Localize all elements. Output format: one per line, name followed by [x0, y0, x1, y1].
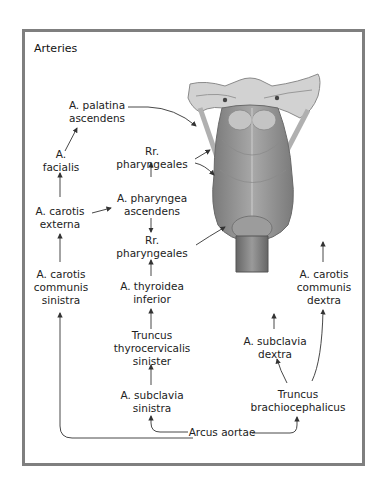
- arrow-palatina-to-pharynx: [128, 107, 196, 126]
- arrow-brachiocephalicus-to-subclavia-dex: [277, 359, 287, 383]
- label-a-facialis: A. facialis: [43, 148, 80, 174]
- arrow-arcus-to-subclavia-sin: [151, 416, 188, 432]
- label-arcus-aortae: Arcus aortae: [189, 426, 256, 439]
- label-a-palatina-ascendens: A. palatina ascendens: [69, 99, 125, 125]
- label-a-thyroidea-inferior: A. thyroidea inferior: [120, 280, 184, 306]
- arrow-rr-upper-to-pharynx-1: [195, 150, 210, 159]
- arrow-rr-upper-to-pharynx-2: [195, 163, 214, 175]
- label-rr-pharyngeales-upper: Rr. pharyngeales: [116, 145, 187, 171]
- label-a-carotis-communis-dextra: A. carotis communis dextra: [297, 268, 351, 307]
- arrow-externa-to-pharyngea: [92, 208, 111, 213]
- label-a-pharyngea-ascendens: A. pharyngea ascendens: [117, 192, 187, 218]
- label-a-carotis-externa: A. carotis externa: [36, 205, 85, 231]
- label-truncus-brachiocephalicus: Truncus brachiocephalicus: [251, 388, 346, 414]
- label-a-subclavia-dextra: A. subclavia dextra: [243, 335, 306, 361]
- arrow-arcus-to-brachiocephalicus: [252, 417, 297, 433]
- label-a-carotis-communis-sinistra: A. carotis communis sinistra: [34, 268, 88, 307]
- label-truncus-thyrocervicalis-sinister: Truncus thyrocervicalis sinister: [114, 329, 191, 368]
- arrow-brachiocephalicus-to-communis-dex: [312, 310, 323, 381]
- arrow-lower-rr-to-pharynx: [196, 227, 225, 245]
- label-a-subclavia-sinistra: A. subclavia sinistra: [120, 389, 183, 415]
- label-rr-pharyngeales-lower: Rr. pharyngeales: [116, 234, 187, 260]
